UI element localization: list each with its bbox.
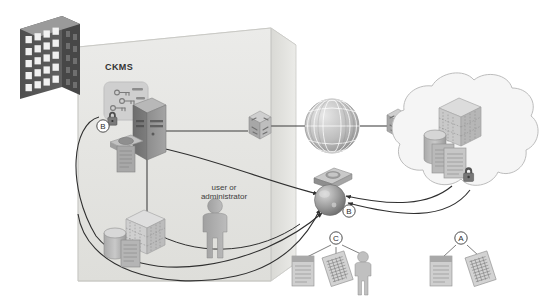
diagram-canvas: B B C A CKMS user or administrator <box>0 0 549 308</box>
group-c-items <box>292 245 371 295</box>
key-sphere-icon <box>315 185 346 216</box>
svg-text:C: C <box>333 234 339 243</box>
router-left-icon <box>249 111 271 139</box>
svg-text:A: A <box>458 234 464 243</box>
storage-document-icon <box>121 240 140 267</box>
user-administrator-label: user or administrator <box>178 184 270 202</box>
doc-c-plain-icon <box>292 256 314 286</box>
ckms-label: CKMS <box>105 62 133 72</box>
group-a-items <box>430 245 496 287</box>
ckms-server-tower-icon <box>133 98 166 160</box>
svg-text:B: B <box>346 207 351 216</box>
marker-a-group: A <box>455 232 467 244</box>
office-building-icon <box>20 16 80 108</box>
internet-globe-icon <box>305 99 359 153</box>
doc-a-cipher-icon <box>465 251 496 287</box>
doc-c-cipher-icon <box>322 251 353 287</box>
curve-cloud-to-key <box>346 186 452 203</box>
marker-b-ckms: B <box>97 120 109 132</box>
marker-b-sphere: B <box>343 205 355 217</box>
person-c-icon <box>355 252 371 295</box>
svg-text:B: B <box>100 122 105 131</box>
marker-c-group: C <box>330 232 342 244</box>
doc-a-plain-icon <box>430 256 452 286</box>
diagram-vector-layer: B B C A <box>0 0 549 308</box>
